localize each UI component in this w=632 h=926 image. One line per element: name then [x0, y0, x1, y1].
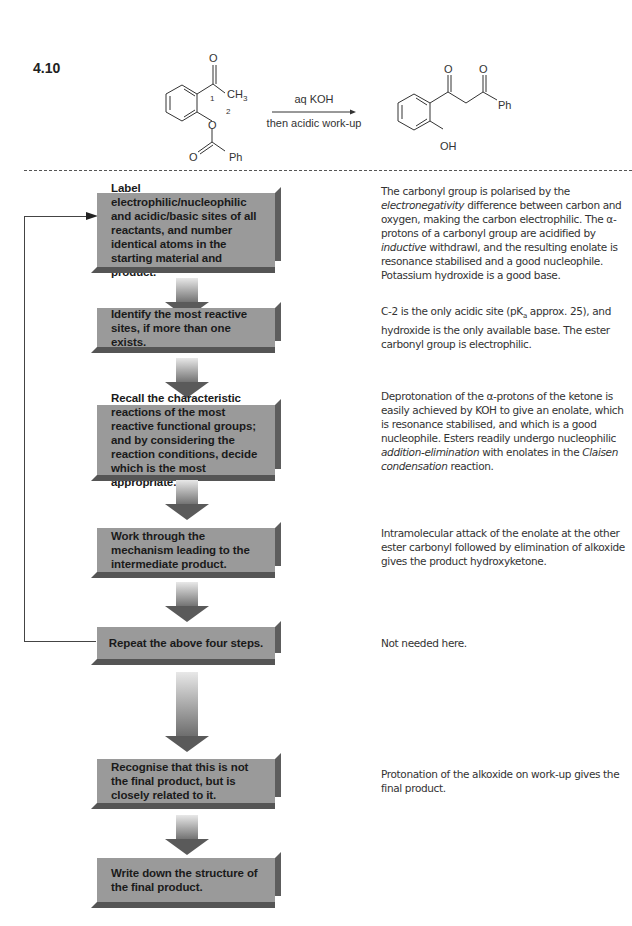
step-box-1: Label electrophilic/nucleophilic and aci…: [97, 193, 275, 267]
reaction-scheme: O CH3 1 2 O O Ph aq KOH then acidic work…: [0, 0, 632, 170]
note-step-6: Protonation of the alkoxide on work-up g…: [381, 767, 631, 795]
note-text: reaction.: [447, 460, 493, 472]
methyl-subscript: 3: [243, 94, 248, 103]
note-emphasis: addition-elimination: [381, 446, 479, 458]
step-box-4: Work through the mechanism leading to th…: [97, 528, 275, 572]
down-arrow-icon: [165, 582, 209, 622]
note-text: Deprotonation of the α-protons of the ke…: [381, 390, 624, 444]
step-label-5: Repeat the above four steps.: [109, 636, 263, 650]
product-hydroxyl: OH: [440, 140, 457, 152]
conditions-line-1: aq KOH: [294, 93, 333, 105]
section-divider: [24, 170, 632, 171]
feedback-loop-line: [24, 216, 25, 641]
product-structure: [398, 75, 497, 130]
note-step-3: Deprotonation of the α-protons of the ke…: [381, 389, 631, 473]
product-carbonyl-o-1: O: [444, 63, 453, 75]
note-step-5: Not needed here.: [381, 636, 631, 650]
reactant-ester-o: O: [208, 119, 217, 131]
reactant-phenyl: Ph: [229, 151, 242, 163]
note-step-1: The carbonyl group is polarised by the e…: [381, 184, 631, 282]
feedback-loop-bottom: [24, 641, 96, 642]
reaction-arrow: [272, 110, 356, 115]
conditions-line-2: then acidic work-up: [267, 117, 362, 129]
reactant-carbonyl-o: O: [209, 52, 218, 64]
note-step-2: C-2 is the only acidic site (pKa approx.…: [381, 304, 631, 351]
reactant-structure: [166, 65, 225, 154]
feedback-loop-top: [24, 216, 86, 217]
note-text: Intramolecular attack of the enolate at …: [381, 527, 625, 567]
note-text: Not needed here.: [381, 637, 467, 649]
down-arrow-icon: [165, 815, 209, 855]
step-box-6: Recognise that this is not the final pro…: [97, 759, 275, 803]
atom-number-1: 1: [210, 94, 215, 103]
reactant-methyl: CH3: [227, 88, 248, 103]
step-label-6: Recognise that this is not the final pro…: [111, 760, 263, 802]
step-box-2: Identify the most reactive sites, if mor…: [97, 308, 275, 347]
step-box-7: Write down the structure of the final pr…: [97, 858, 275, 902]
atom-number-2: 2: [226, 107, 231, 116]
step-label-4: Work through the mechanism leading to th…: [111, 529, 263, 571]
step-label-7: Write down the structure of the final pr…: [111, 866, 263, 894]
note-text: with enolates in the: [479, 446, 582, 458]
step-label-3: Recall the characteristic reactions of t…: [111, 391, 263, 489]
note-emphasis: inductive: [381, 241, 426, 253]
note-step-4: Intramolecular attack of the enolate at …: [381, 526, 631, 568]
step-box-3: Recall the characteristic reactions of t…: [97, 405, 275, 475]
methyl-label: CH: [227, 88, 243, 100]
step-label-1: Label electrophilic/nucleophilic and aci…: [111, 181, 263, 279]
step-label-2: Identify the most reactive sites, if mor…: [111, 307, 263, 349]
note-text: C-2 is the only acidic site (pK: [381, 305, 523, 317]
product-carbonyl-o-2: O: [479, 63, 488, 75]
reactant-ester-carbonyl-o: O: [189, 151, 198, 163]
note-emphasis: electronegativity: [381, 199, 464, 211]
note-text: The carbonyl group is polarised by the: [381, 185, 570, 197]
step-box-5: Repeat the above four steps.: [97, 627, 275, 659]
product-phenyl: Ph: [498, 99, 511, 111]
down-arrow-icon: [165, 480, 209, 520]
down-arrow-icon: [165, 672, 209, 752]
note-text: Protonation of the alkoxide on work-up g…: [381, 768, 619, 794]
